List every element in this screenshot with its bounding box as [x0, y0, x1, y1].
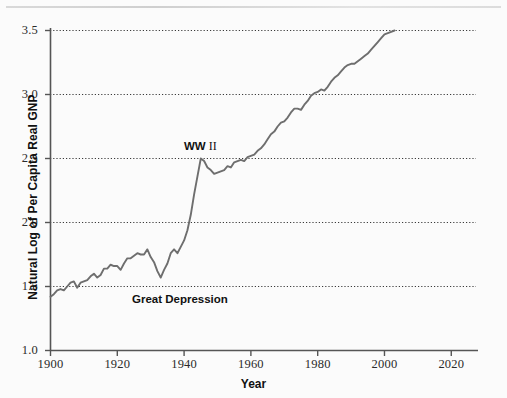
axes — [50, 28, 478, 351]
xtick-label-2020: 2020 — [428, 357, 474, 372]
y-axis-title: Natural Log of Per Capita Real GNP — [26, 92, 40, 302]
line-chart-plot — [0, 0, 507, 398]
ytick-label-1-0: 1.0 — [6, 343, 38, 358]
xtick-label-1920: 1920 — [94, 357, 140, 372]
annotation-great-depression: Great Depression — [132, 293, 228, 305]
ytick-label-3-5: 3.5 — [6, 23, 38, 38]
xtick-label-2000: 2000 — [361, 357, 407, 372]
xtick-label-1960: 1960 — [228, 357, 274, 372]
xtick-label-1940: 1940 — [161, 357, 207, 372]
annotation-world-war-two: WW II — [184, 139, 217, 154]
y-axis-ticks — [45, 31, 51, 351]
xtick-label-1900: 1900 — [28, 357, 74, 372]
gridlines — [50, 31, 476, 287]
chart-figure: 3.5 3.0 2.5 2.0 1.5 1.0 1900192019401960… — [0, 0, 507, 398]
xtick-label-1980: 1980 — [295, 357, 341, 372]
x-axis-title: Year — [0, 377, 507, 391]
annotation-wwii-numeral: II — [206, 139, 217, 153]
gnp-series-line — [51, 31, 395, 297]
annotation-wwii-bold: WW — [184, 140, 206, 152]
x-axis-ticks — [51, 351, 452, 357]
